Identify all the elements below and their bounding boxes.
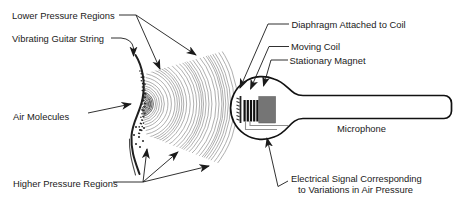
label-electrical-signal-line2: to Variations in Air Pressure [298,184,413,195]
electrical-signal-arrow [267,138,288,187]
guitar-string [129,55,143,175]
guitar-string-curve [131,55,143,174]
label-stationary-magnet: Stationary Magnet [290,55,366,66]
label-vibrating-guitar-string: Vibrating Guitar String [12,33,104,44]
label-higher-pressure-regions: Higher Pressure Regions [13,178,118,189]
higher-pressure-arrow-1 [143,149,147,182]
label-lower-pressure-regions: Lower Pressure Regions [12,10,115,21]
label-moving-coil: Moving Coil [291,41,340,52]
label-diaphragm-attached-to-coil: Diaphragm Attached to Coil [292,19,406,30]
label-microphone: Microphone [337,123,386,134]
stationary-magnet [259,97,276,124]
vibrating-string-arrow [111,38,134,56]
microphone-diagram: Lower Pressure Regions Vibrating Guitar … [0,0,465,209]
label-electrical-signal-line1: Electrical Signal Corresponding [291,173,422,184]
air-molecules-arrow [88,104,131,113]
label-air-molecules: Air Molecules [13,111,70,122]
diagram-canvas: Lower Pressure Regions Vibrating Guitar … [0,0,465,209]
